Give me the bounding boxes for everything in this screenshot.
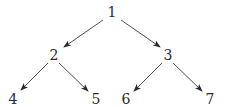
node-3: 3 [164, 47, 173, 63]
node-5: 5 [92, 91, 101, 107]
edge-1-2 [64, 20, 103, 47]
binary-tree-diagram: 1 2 3 4 5 6 7 [0, 0, 225, 107]
node-6: 6 [122, 91, 131, 107]
node-7: 7 [206, 91, 215, 107]
node-2: 2 [50, 47, 59, 63]
edge-2-4 [21, 63, 48, 90]
edges [21, 20, 202, 91]
edge-3-6 [134, 63, 162, 91]
edge-2-5 [59, 63, 88, 91]
nodes: 1 2 3 4 5 6 7 [9, 4, 215, 107]
edge-3-7 [173, 63, 202, 91]
node-1: 1 [108, 4, 117, 20]
edge-1-3 [121, 20, 160, 47]
node-4: 4 [9, 91, 18, 107]
